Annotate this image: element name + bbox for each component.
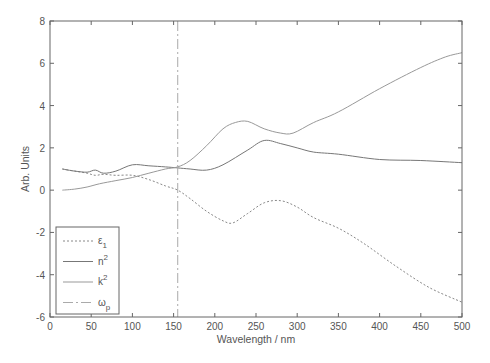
x-tick-label: 450 <box>412 321 429 332</box>
y-tick-label: 0 <box>39 185 45 196</box>
y-tick-label: 2 <box>39 143 45 154</box>
y-tick-label: 4 <box>39 101 45 112</box>
x-axis-label: Wavelength / nm <box>217 333 296 345</box>
y-axis-label: Arb. Units <box>19 146 31 192</box>
legend: ε1n2k2ωp <box>56 227 119 314</box>
y-tick-label: -4 <box>36 270 45 281</box>
x-tick-label: 400 <box>371 321 388 332</box>
series-n2-line <box>62 140 462 173</box>
series-k2-line <box>62 53 462 190</box>
x-tick-label: 0 <box>47 321 53 332</box>
x-tick-label: 250 <box>248 321 265 332</box>
x-tick-label: 150 <box>165 321 182 332</box>
x-tick-label: 100 <box>124 321 141 332</box>
x-tick-label: 200 <box>206 321 223 332</box>
y-tick-label: 8 <box>39 16 45 27</box>
x-tick-label: 350 <box>330 321 347 332</box>
y-tick-label: 6 <box>39 58 45 69</box>
series-1-line <box>62 169 462 302</box>
y-tick-label: -6 <box>36 312 45 323</box>
legend-box <box>56 227 119 314</box>
chart: 050100150200250300350400450500-6-4-20246… <box>0 0 490 363</box>
x-tick-label: 300 <box>289 321 306 332</box>
plot-area <box>62 21 462 317</box>
y-tick-label: -2 <box>36 227 45 238</box>
x-tick-label: 50 <box>86 321 98 332</box>
x-tick-label: 500 <box>454 321 471 332</box>
